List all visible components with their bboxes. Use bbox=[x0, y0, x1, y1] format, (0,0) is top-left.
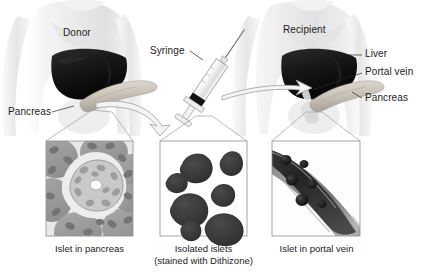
illustration-layer bbox=[0, 0, 433, 276]
label-recipient: Recipient bbox=[283, 24, 326, 35]
islet-transplantation-figure: Donor Recipient Syringe Pancreas Liver P… bbox=[0, 0, 433, 276]
caption-line-2: (stained with Dithizone) bbox=[130, 255, 277, 267]
panel-isolated-islets bbox=[160, 141, 247, 246]
label-pancreas-donor: Pancreas bbox=[8, 106, 51, 117]
panel-islet-in-portal-vein bbox=[254, 141, 374, 252]
caption-islet-in-portal-vein: Islet in portal vein bbox=[253, 243, 380, 255]
label-portal-vein: Portal vein bbox=[365, 66, 413, 77]
caption-line-1: Isolated islets bbox=[175, 243, 233, 254]
label-pancreas-recipient: Pancreas bbox=[365, 92, 408, 103]
caption-line-1: Islet in portal vein bbox=[280, 243, 354, 254]
label-donor: Donor bbox=[63, 27, 91, 38]
panel-islet-in-pancreas bbox=[32, 134, 152, 252]
label-liver: Liver bbox=[365, 48, 387, 59]
label-syringe: Syringe bbox=[150, 45, 185, 56]
caption-line-1: Islet in pancreas bbox=[55, 243, 124, 254]
